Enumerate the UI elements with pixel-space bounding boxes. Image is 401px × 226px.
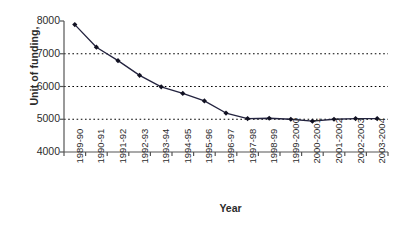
x-axis-tick-label: 1991-92	[118, 129, 127, 164]
x-axis-tick-label: 2002-2003	[355, 118, 364, 163]
x-axis-tick-label: 1992-93	[139, 129, 148, 164]
x-axis-tick-label: 1990-91	[96, 129, 105, 164]
funding-line-chart: Unit of funding, 40005000600070008000 19…	[0, 0, 401, 226]
x-axis-title-text: Year	[219, 202, 241, 214]
x-axis-tick-label: 2001-2002	[334, 118, 343, 163]
x-axis-tick-label: 2000-2001	[312, 118, 321, 163]
x-axis-tick-label: 1999-2000	[290, 118, 299, 163]
x-axis-tick-label: 2003-2004	[377, 118, 386, 163]
x-axis-tick-label: 1993-94	[161, 129, 170, 164]
x-axis-tick-label: 1994-95	[182, 129, 191, 164]
x-axis-tick-labels: 1989-901990-911991-921992-931993-941994-…	[0, 0, 401, 226]
x-axis-tick-label: 1996-97	[226, 129, 235, 164]
x-axis-title: Year	[0, 202, 401, 214]
x-axis-tick-label: 1997-98	[247, 129, 256, 164]
x-axis-tick-label: 1989-90	[74, 129, 83, 164]
x-axis-tick-label: 1995-96	[204, 129, 213, 164]
x-axis-tick-label: 1998-99	[269, 129, 278, 164]
